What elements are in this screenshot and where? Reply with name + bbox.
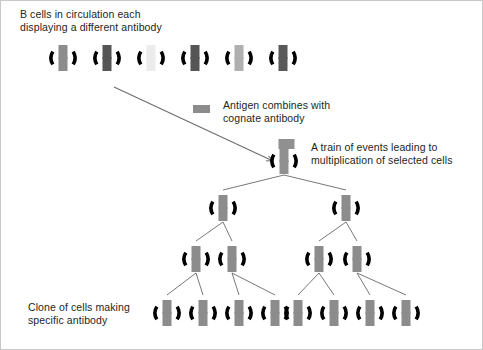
label-b-cells-in-circulation: B cells in circulation each displaying a… (20, 8, 162, 34)
b-cell-clone-l2-3 (307, 246, 331, 272)
b-cell-clone-l3-8 (394, 300, 418, 326)
cell-ring-right (242, 253, 244, 266)
antibody-bar-bottom (342, 207, 351, 221)
cell-ring-left (263, 307, 265, 320)
tree-edge-3 (223, 222, 232, 241)
cell-ring-left (307, 253, 309, 266)
cell-ring-left (394, 307, 396, 320)
b-cell-clone-l2-1 (184, 246, 208, 272)
tree-edge-9 (232, 273, 275, 295)
antibody-bar-bottom (315, 258, 324, 272)
tree-edge-5 (346, 222, 357, 241)
cell-ring-right (344, 307, 346, 320)
tree-edge-0 (223, 175, 284, 190)
antibody-bar-top (353, 246, 362, 260)
antibody-bar-bottom (271, 312, 280, 326)
antibody-bar-top (199, 300, 208, 314)
cell-ring-left (286, 307, 288, 320)
antibody-bar-bottom (103, 57, 112, 71)
antibody-bar-bottom (353, 258, 362, 272)
cell-ring-left (211, 202, 213, 215)
cell-ring-right (329, 253, 331, 266)
cell-ring-right (293, 52, 295, 65)
b-cell-circulating-2 (95, 45, 119, 71)
label-train-of-events: A train of events leading to multiplicat… (311, 141, 453, 167)
antibody-bar-top (219, 195, 228, 209)
cell-ring-right (367, 253, 369, 266)
cell-ring-left (227, 52, 229, 65)
cell-ring-right (205, 52, 207, 65)
tree-edge-13 (357, 273, 406, 295)
antibody-bar-top (342, 195, 351, 209)
b-cell-clone-l3-6 (322, 300, 346, 326)
cell-ring-left (345, 253, 347, 266)
antibody-bar-top (147, 45, 156, 59)
b-cell-clone-l3-2 (191, 300, 215, 326)
antibody-bar-top (235, 300, 244, 314)
tree-edge-7 (196, 273, 203, 295)
label-antigen-combines: Antigen combines with cognate antibody (223, 99, 330, 125)
cell-ring-left (271, 52, 273, 65)
b-cell-clone-l3-4 (263, 300, 287, 326)
b-cell-circulating-1 (51, 45, 75, 71)
diagram-canvas: B cells in circulation each displaying a… (0, 0, 483, 350)
tree-edges (167, 175, 406, 295)
cell-ring-left (227, 307, 229, 320)
cell-ring-left (191, 307, 193, 320)
antibody-bar-bottom (235, 57, 244, 71)
antibody-bar-bottom (279, 57, 288, 71)
cell-ring-left (95, 52, 97, 65)
selected-cell-group (272, 139, 296, 174)
cell-ring-left (358, 307, 360, 320)
antibody-bar-bottom (235, 312, 244, 326)
b-cell-circulating-5 (227, 45, 251, 71)
cell-ring-right (416, 307, 418, 320)
b-cell-clone-l1-2 (334, 195, 358, 221)
cell-ring-left (139, 52, 141, 65)
antibody-bar-top (294, 300, 303, 314)
tree-edge-4 (319, 222, 346, 241)
cell-ring-right (206, 253, 208, 266)
antibody-bar-top (402, 300, 411, 314)
antibody-bar-top (235, 45, 244, 59)
cell-ring-left (183, 52, 185, 65)
b-cell-clone-l3-1 (155, 300, 179, 326)
cell-ring-left (155, 307, 157, 320)
cell-ring-right (380, 307, 382, 320)
bound-antigen-block (279, 139, 295, 149)
tree-edge-6 (167, 273, 196, 295)
cell-ring-left (51, 52, 53, 65)
antibody-bar-bottom (219, 207, 228, 221)
antibody-bar-top (228, 246, 237, 260)
antibody-bar-bottom (192, 258, 201, 272)
tree-edge-1 (284, 175, 346, 190)
antibody-bar-top (59, 45, 68, 59)
antibody-bar-top (279, 45, 288, 59)
antibody-bar-bottom (191, 57, 200, 71)
antibody-bar-top (315, 246, 324, 260)
antigen-legend-swatch (193, 105, 210, 113)
cell-ring-right (177, 307, 179, 320)
antigen-legend-swatch-group (193, 105, 210, 113)
antibody-bar-top (163, 300, 172, 314)
b-cell-circulating-6 (271, 45, 295, 71)
antibody-bar-bottom (228, 258, 237, 272)
antibody-bar-top (330, 300, 339, 314)
antibody-bar-bottom (163, 312, 172, 326)
antibody-bar-top (192, 246, 201, 260)
antibody-bar-top (366, 300, 375, 314)
cell-ring-right (249, 307, 251, 320)
b-cell-circulating-3 (139, 45, 163, 71)
antibody-bar-bottom (280, 160, 289, 174)
b-cell-clone-l3-5 (286, 300, 310, 326)
antibody-bar-bottom (147, 57, 156, 71)
b-cell-clone-l3-3 (227, 300, 251, 326)
tree-edge-2 (196, 222, 223, 241)
cell-ring-right (356, 202, 358, 215)
antibody-bar-bottom (330, 312, 339, 326)
tree-edge-10 (298, 273, 319, 295)
cell-ring-right (249, 52, 251, 65)
antibody-bar-top (191, 45, 200, 59)
b-cell-clone-l2-4 (345, 246, 369, 272)
cell-ring-right (233, 202, 235, 215)
